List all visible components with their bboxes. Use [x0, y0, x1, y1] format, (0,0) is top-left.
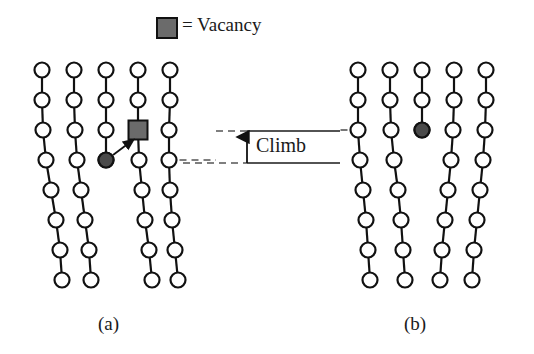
- lattice-atom: [363, 273, 378, 288]
- lattice-atom: [67, 63, 82, 78]
- climb-label: Climb: [256, 134, 306, 157]
- panel-a-label: (a): [98, 313, 119, 335]
- lattice-atom: [99, 93, 114, 108]
- lattice-atom: [387, 153, 402, 168]
- lattice-atom: [473, 183, 488, 198]
- lattice-atom: [353, 153, 368, 168]
- lattice-atom: [132, 153, 147, 168]
- lattice-atom: [163, 93, 178, 108]
- lattice-atom: [415, 63, 430, 78]
- lattice-atom: [82, 243, 97, 258]
- lattice-atom: [433, 273, 448, 288]
- lattice-atom: [55, 273, 70, 288]
- lattice-atom: [396, 243, 411, 258]
- lattice-atom: [163, 63, 178, 78]
- lattice-atom: [131, 93, 146, 108]
- lattice-atom: [447, 93, 462, 108]
- dislocation-atom: [99, 153, 114, 168]
- lattice-atom: [476, 153, 491, 168]
- lattice-atom: [78, 213, 93, 228]
- lattice-atom: [44, 183, 59, 198]
- panel-b-lattice: [340, 63, 494, 288]
- legend-vacancy-square: [157, 18, 177, 38]
- lattice-atom: [438, 213, 453, 228]
- lattice-atom: [171, 273, 186, 288]
- figure-root: = Vacancy Climb (a) (b): [0, 0, 534, 354]
- lattice-atom: [99, 63, 114, 78]
- lattice-atom: [351, 123, 366, 138]
- lattice-atom: [36, 123, 51, 138]
- lattice-atom: [70, 153, 85, 168]
- lattice-atom: [394, 213, 409, 228]
- vacancy-migration-arrow: [113, 140, 133, 155]
- lattice-atom: [162, 153, 177, 168]
- lattice-atom: [35, 63, 50, 78]
- lattice-atom: [99, 123, 114, 138]
- lattice-atom: [383, 63, 398, 78]
- vacancy-square: [129, 121, 148, 140]
- lattice-atom: [383, 93, 398, 108]
- lattice-atom: [351, 93, 366, 108]
- lattice-atom: [162, 123, 177, 138]
- lattice-atom: [391, 183, 406, 198]
- lattice-atom: [145, 273, 160, 288]
- lattice-atom: [168, 243, 183, 258]
- lattice-atom: [467, 243, 482, 258]
- lattice-atom: [163, 183, 178, 198]
- lattice-atom: [478, 123, 493, 138]
- lattice-atom: [35, 93, 50, 108]
- lattice-atom: [351, 63, 366, 78]
- lattice-atom: [465, 273, 480, 288]
- lattice-atom: [415, 93, 430, 108]
- legend-label: = Vacancy: [182, 14, 261, 36]
- dislocation-atom: [415, 123, 430, 138]
- panel-b-label: (b): [404, 313, 426, 335]
- lattice-atom: [361, 243, 376, 258]
- lattice-atom: [142, 243, 157, 258]
- lattice-atom: [435, 243, 450, 258]
- lattice-atom: [131, 63, 146, 78]
- lattice-atom: [165, 213, 180, 228]
- lattice-atom: [384, 123, 399, 138]
- lattice-atom: [138, 213, 153, 228]
- lattice-atom: [444, 153, 459, 168]
- figure-canvas: [0, 0, 534, 354]
- lattice-atom: [479, 63, 494, 78]
- lattice-atom: [74, 183, 89, 198]
- lattice-atom: [446, 123, 461, 138]
- lattice-atom: [135, 183, 150, 198]
- lattice-atom: [398, 273, 413, 288]
- lattice-atom: [84, 273, 99, 288]
- panel-a-lattice: [35, 63, 217, 288]
- lattice-atom: [53, 243, 68, 258]
- lattice-atom: [447, 63, 462, 78]
- lattice-atom: [479, 93, 494, 108]
- lattice-atom: [39, 153, 54, 168]
- lattice-atom: [67, 93, 82, 108]
- lattice-atom: [359, 213, 374, 228]
- lattice-atom: [470, 213, 485, 228]
- lattice-atom: [441, 183, 456, 198]
- lattice-atom: [68, 123, 83, 138]
- lattice-atom: [356, 183, 371, 198]
- lattice-atom: [49, 213, 64, 228]
